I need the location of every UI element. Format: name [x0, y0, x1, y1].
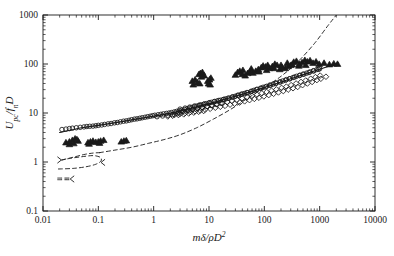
arrow-left [57, 157, 61, 163]
y-tick-label: 10 [29, 108, 39, 118]
data-point-triangle [321, 60, 328, 66]
figure-container: 0.010.1110100100010000 0.11101001000 mδ/… [0, 0, 394, 256]
y-tick-label: 0.1 [26, 206, 38, 216]
scatter-plot: 0.010.1110100100010000 0.11101001000 mδ/… [0, 0, 394, 256]
arrow-stub-right [70, 176, 74, 182]
x-tick-labels: 0.010.1110100100010000 [35, 215, 387, 225]
axis-ticks [43, 15, 375, 211]
y-tick-label: 100 [24, 59, 39, 69]
x-tick-label: 10 [204, 215, 214, 225]
data-markers [60, 57, 341, 147]
y-tick-label: 1 [33, 157, 38, 167]
y-axis-label-text: Upc/fnD [3, 97, 20, 130]
x-tick-label: 0.1 [92, 215, 104, 225]
y-tick-label: 1000 [19, 10, 38, 20]
dashed-hysteresis-lower [58, 156, 101, 169]
data-point-triangle [284, 60, 291, 66]
x-tick-label: 1 [151, 215, 156, 225]
plot-frame [43, 15, 375, 211]
y-axis-label: Upc/fnD [3, 97, 20, 130]
model-curves [58, 15, 339, 180]
data-point-triangle [248, 66, 255, 72]
x-tick-label: 1000 [310, 215, 329, 225]
x-tick-label: 100 [257, 215, 272, 225]
x-axis-label-text: mδ/ρD2 [192, 230, 225, 244]
x-tick-label: 10000 [363, 215, 387, 225]
x-axis-label: mδ/ρD2 [192, 230, 225, 244]
y-tick-labels: 0.11101001000 [19, 10, 38, 216]
x-tick-label: 0.01 [35, 215, 52, 225]
